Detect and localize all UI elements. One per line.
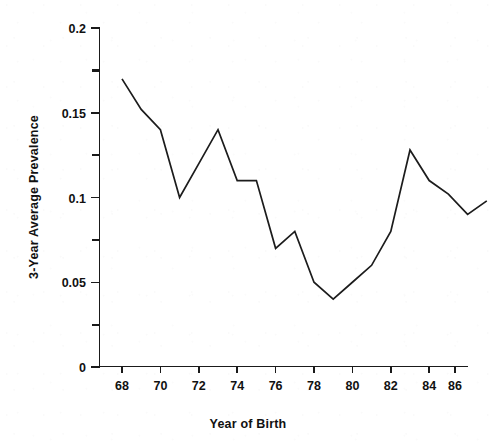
x-tick-label-70: 70 [153, 379, 167, 393]
x-tick-label-86: 86 [448, 379, 462, 393]
x-axis-title: Year of Birth [210, 417, 287, 431]
y-tick-label-0.15: 0.15 [62, 107, 86, 121]
x-tick-label-84: 84 [422, 379, 436, 393]
y-tick-label-0.2: 0.2 [69, 22, 86, 36]
y-axis-title: 3-Year Average Prevalence [27, 115, 41, 279]
x-tick-label-78: 78 [307, 379, 321, 393]
x-tick-label-68: 68 [115, 379, 129, 393]
x-tick-label-74: 74 [230, 379, 244, 393]
x-tick-label-80: 80 [345, 379, 359, 393]
chart-background [0, 0, 489, 448]
y-tick-label-0.05: 0.05 [62, 276, 86, 290]
x-tick-label-76: 76 [269, 379, 283, 393]
x-tick-label-82: 82 [384, 379, 398, 393]
y-tick-label-0.1: 0.1 [69, 192, 86, 206]
line-chart: 0.2 0.15 0.1 0.05 0 68 70 72 74 76 78 80… [0, 0, 489, 448]
chart-figure: 0.2 0.15 0.1 0.05 0 68 70 72 74 76 78 80… [0, 0, 489, 448]
x-tick-label-72: 72 [192, 379, 206, 393]
y-tick-label-0: 0 [79, 361, 86, 375]
